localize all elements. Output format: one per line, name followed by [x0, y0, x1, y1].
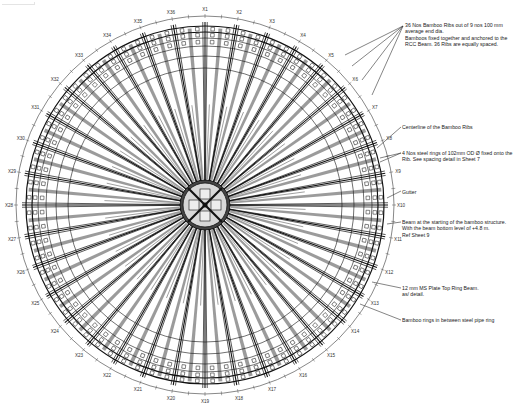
bamboo-ring-block [135, 365, 140, 370]
bamboo-ring-block [332, 103, 337, 108]
bamboo-ring-block [290, 65, 295, 70]
bamboo-ring-block [140, 353, 145, 358]
bamboo-ring-block [58, 127, 63, 132]
bamboo-ring-block [103, 73, 108, 78]
bamboo-ring-block [27, 195, 31, 199]
grid-label-x24: X24 [51, 329, 60, 334]
bamboo-ring-block [41, 152, 46, 157]
grid-label-x3: X3 [269, 19, 275, 24]
bamboo-ring-block [181, 372, 185, 376]
grid-label-x28: X28 [5, 203, 14, 208]
grid-tick [389, 237, 393, 238]
bamboo-ring-block [52, 265, 57, 270]
callout-beam: Beam at the starting of the bamboo struc… [402, 219, 506, 238]
bamboo-ring-block [241, 375, 245, 379]
grid-label-x23: X23 [75, 353, 84, 358]
bamboo-ring-block [196, 366, 200, 370]
callout-line: as/ detail. [402, 291, 479, 297]
grid-label-x9: X9 [395, 169, 401, 174]
grid-label-x35: X35 [134, 19, 143, 24]
bamboo-ring-block [127, 347, 132, 352]
hub-center-point [203, 203, 208, 208]
bamboo-ring-block [166, 37, 170, 41]
callout-top-ring: 12 mm MS Plate Top Ring Beam.as/ detail. [402, 285, 479, 298]
callout-line: Rib. See spacing detail in Sheet 7 [402, 156, 512, 162]
bamboo-ring-block [340, 290, 345, 295]
bamboo-ring-block [241, 31, 245, 35]
bamboo-ring-block [281, 353, 286, 358]
callout-line: RCC Beam. 36 Ribs are equally spaced. [405, 41, 507, 47]
bamboo-ring-block [358, 252, 363, 257]
bamboo-ring-block [152, 365, 157, 370]
bamboo-ring-block [196, 40, 200, 44]
bamboo-ring-block [323, 313, 328, 318]
bamboo-ring-block [377, 226, 381, 230]
bamboo-ring-block [302, 332, 307, 337]
bamboo-ring-block [165, 375, 169, 379]
bamboo-ring-block [372, 225, 376, 229]
bamboo-ring-block [358, 154, 363, 159]
bamboo-ring-block [35, 256, 40, 261]
bamboo-ring-block [369, 166, 373, 170]
callout-line: Bamboo rings in between steel pipe ring [402, 317, 494, 323]
bamboo-ring-block [281, 52, 286, 57]
bamboo-ring-block [365, 152, 370, 157]
bamboo-ring-block [150, 371, 155, 376]
bamboo-ring-block [92, 323, 97, 328]
bamboo-ring-block [58, 278, 63, 283]
bamboo-ring-block [37, 166, 41, 170]
bamboo-ring-block [332, 302, 337, 307]
bamboo-ring-block [150, 35, 155, 40]
bamboo-ring-block [182, 41, 186, 45]
bamboo-ring-block [290, 340, 295, 345]
bamboo-ring-block [52, 124, 57, 129]
bamboo-ring-block [353, 265, 358, 270]
bamboo-ring-block [284, 359, 289, 364]
grid-label-x18: X18 [235, 396, 244, 401]
bamboo-ring-block [226, 377, 230, 381]
bamboo-ring-block [365, 224, 369, 228]
bamboo-ring-block [224, 365, 228, 369]
grid-label-x5: X5 [328, 53, 334, 58]
bamboo-ring-block [165, 31, 169, 35]
bamboo-ring-block [371, 150, 376, 155]
grid-tick [49, 312, 52, 314]
bamboo-ring-block [347, 278, 352, 283]
bamboo-ring-block [359, 284, 364, 289]
grid-label-x19: X19 [201, 399, 210, 404]
bamboo-ring-block [313, 82, 318, 87]
grid-tick [172, 389, 173, 393]
bamboo-ring-block [152, 41, 157, 46]
bamboo-ring-block [362, 168, 366, 172]
hub-plate [200, 211, 210, 221]
bamboo-ring-block [211, 27, 215, 31]
grid-label-x20: X20 [167, 396, 176, 401]
bamboo-ring-block [362, 238, 366, 242]
grid-tick [95, 358, 97, 361]
bamboo-ring-block [34, 181, 38, 185]
bamboo-ring-block [40, 135, 45, 140]
bamboo-ring-block [121, 46, 126, 51]
bamboo-ring-block [365, 254, 370, 259]
bamboo-ring-block [140, 52, 145, 57]
bamboo-ring-block [284, 46, 289, 51]
bamboo-ring-block [268, 46, 273, 51]
bamboo-ring-block [154, 358, 159, 363]
grid-label-x13: X13 [371, 301, 380, 306]
bamboo-ring-block [46, 284, 51, 289]
bamboo-ring-block [168, 44, 172, 48]
bamboo-ring-block [31, 165, 35, 169]
grid-tick [358, 312, 361, 314]
callout-centerline: Centerline of the Bamboo Ribs [402, 124, 473, 130]
grid-label-x32: X32 [51, 77, 60, 82]
bamboo-ring-block [121, 359, 126, 364]
bamboo-ring-block [40, 210, 44, 214]
bamboo-ring-block [252, 358, 257, 363]
hub-plate [189, 200, 199, 210]
bamboo-ring-block [270, 365, 275, 370]
bamboo-ring-block [313, 323, 318, 328]
bamboo-ring-block [347, 127, 352, 132]
bamboo-ring-block [268, 360, 273, 365]
grid-label-x30: X30 [17, 136, 26, 141]
bamboo-ring-block [240, 369, 244, 373]
